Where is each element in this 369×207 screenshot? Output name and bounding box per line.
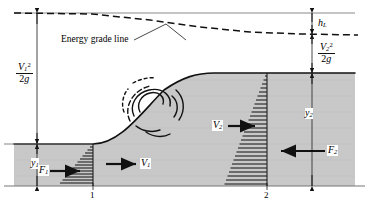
velocity-head-2-denominator: 2g: [318, 54, 335, 65]
velocity-head-1-label: V12 2g: [16, 62, 33, 85]
velocity-1-label: V1: [140, 158, 151, 169]
energy-grade-line-label: Energy grade line: [61, 35, 128, 45]
water-body: [14, 73, 355, 186]
head-loss-label: hL: [318, 18, 327, 29]
station-1-label: 1: [90, 191, 95, 200]
energy-grade-line-leader-2: [166, 24, 186, 40]
energy-grade-line: [14, 13, 358, 35]
force-1-label: F1: [38, 165, 49, 176]
head-loss-subscript: L: [323, 21, 327, 28]
force-2-label: F2: [327, 145, 338, 156]
velocity-2-label: V2: [212, 120, 223, 131]
station-2-label: 2: [264, 191, 269, 200]
hydraulic-jump-figure: Energy grade line hL V12 2g V22 2g y1 y2…: [0, 0, 369, 207]
diagram-canvas: [0, 0, 369, 207]
velocity-head-2-label: V22 2g: [318, 42, 335, 65]
depth-2-label: y2: [305, 108, 313, 119]
energy-grade-line-leader: [134, 24, 166, 40]
velocity-head-1-denominator: 2g: [16, 74, 33, 85]
